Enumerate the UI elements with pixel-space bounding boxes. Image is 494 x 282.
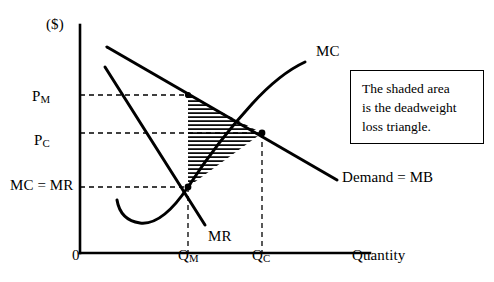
quantity-competitive-label: QC xyxy=(252,248,270,264)
competitive-equilibrium-point xyxy=(259,130,266,137)
price-competitive-label: PC xyxy=(34,133,50,149)
callout-line-3: loss triangle. xyxy=(362,117,456,136)
x-axis-title-label: Quantity xyxy=(352,248,405,263)
price-monopoly-label: PM xyxy=(32,89,50,105)
deadweight-loss-callout-box: The shaded area is the deadweight loss t… xyxy=(350,70,484,144)
quantity-competitive-base: Q xyxy=(252,247,263,263)
quantity-monopoly-subscript: M xyxy=(189,252,199,264)
mc-curve-label: MC xyxy=(316,44,340,59)
origin-label: 0 xyxy=(72,248,80,263)
quantity-competitive-subscript: C xyxy=(263,252,270,264)
price-monopoly-subscript: M xyxy=(40,93,50,105)
monopoly-price-point xyxy=(185,92,191,98)
y-axis-unit-label: ($) xyxy=(46,17,64,32)
monopoly-output-point xyxy=(185,184,192,191)
mc-equals-mr-label: MC = MR xyxy=(10,178,73,193)
demand-curve-label: Demand = MB xyxy=(342,170,433,185)
mr-curve-label: MR xyxy=(208,229,232,244)
callout-line-2: is the deadweight xyxy=(362,98,456,117)
economics-diagram: ($) PM PC MC = MR MC Demand = MB MR 0 QM… xyxy=(0,0,494,282)
callout-text: The shaded area is the deadweight loss t… xyxy=(362,79,456,136)
price-competitive-subscript: C xyxy=(42,137,49,149)
deadweight-loss-triangle xyxy=(188,95,262,187)
callout-line-1: The shaded area xyxy=(362,79,456,98)
quantity-monopoly-label: QM xyxy=(178,248,199,264)
quantity-monopoly-base: Q xyxy=(178,247,189,263)
